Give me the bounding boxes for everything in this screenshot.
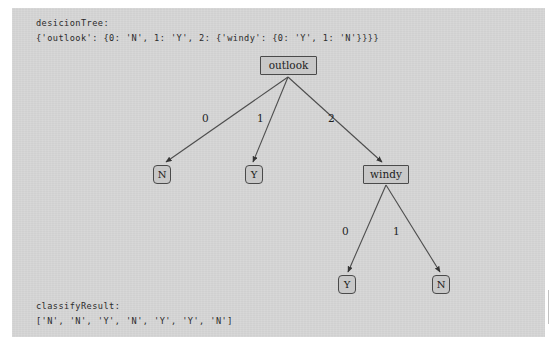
edge-label-windy-1: 1 [393,226,400,237]
tree-leaf-n-2[interactable]: N [432,275,450,294]
tree-leaf-y-2[interactable]: Y [338,275,356,294]
tree-node-windy[interactable]: windy [363,165,409,184]
edge-label-outlook-0: 0 [202,113,209,124]
edge-windy-to-leafY2 [348,185,386,272]
edge-outlook-to-leafN1 [166,77,288,162]
edge-label-outlook-1: 1 [257,113,264,124]
output-panel: desicionTree: {'outlook': {0: 'N', 1: 'Y… [12,8,545,337]
edge-outlook-to-windy [288,77,382,162]
tree-node-outlook[interactable]: outlook [260,56,317,75]
screenshot-root: desicionTree: {'outlook': {0: 'N', 1: 'Y… [0,0,554,351]
classify-result-value: ['N', 'N', 'Y', 'N', 'Y', 'Y', 'N'] [36,316,233,326]
decision-tree-value: {'outlook': {0: 'N', 1: 'Y', 2: {'windy'… [36,33,379,43]
classify-result-label: classifyResult: [36,301,120,311]
edge-label-outlook-2: 2 [328,113,335,124]
decision-tree-label: desicionTree: [36,18,109,28]
tree-leaf-n-1[interactable]: N [153,165,171,184]
tree-leaf-y-1[interactable]: Y [245,165,263,184]
edge-label-windy-0: 0 [342,226,349,237]
page-margin-rule [548,290,549,324]
